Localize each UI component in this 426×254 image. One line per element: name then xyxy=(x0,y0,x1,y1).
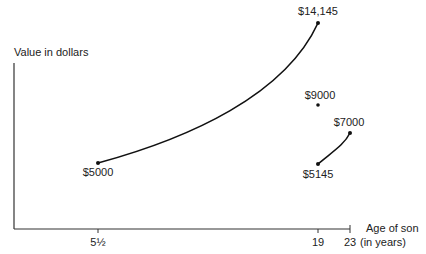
label-7000: $7000 xyxy=(334,116,365,128)
point-7000 xyxy=(348,131,352,135)
x-axis-label-line1: Age of son xyxy=(366,222,419,234)
tick-label-19: 19 xyxy=(312,236,324,248)
x-axis-label-line2: (in years) xyxy=(360,236,406,248)
tick-label-23: 23 xyxy=(344,236,356,248)
chart: Value in dollars 5½ 19 23 Age of son (in… xyxy=(0,0,426,254)
label-14145: $14,145 xyxy=(298,5,338,17)
label-5145: $5145 xyxy=(303,168,334,180)
growth-curve-2 xyxy=(318,133,350,164)
point-5000 xyxy=(96,161,100,165)
label-9000: $9000 xyxy=(305,89,336,101)
tick-label-5-5: 5½ xyxy=(90,236,105,248)
point-9000 xyxy=(316,103,320,107)
growth-curve-1 xyxy=(98,23,318,163)
point-5145 xyxy=(316,162,320,166)
label-5000: $5000 xyxy=(83,166,114,178)
point-14145 xyxy=(316,21,320,25)
y-axis-label: Value in dollars xyxy=(14,46,89,58)
